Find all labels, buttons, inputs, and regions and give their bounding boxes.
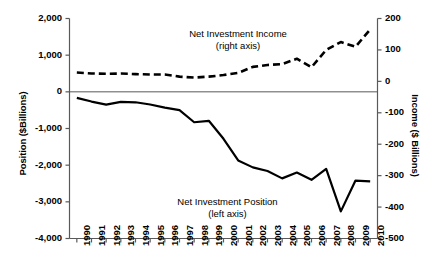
- x-tick-label: 1992: [111, 224, 122, 245]
- x-tick-label: 1997: [184, 224, 195, 245]
- annotation-net-investment-position: Net Investment Position (left axis): [165, 196, 290, 220]
- x-tick-label: 1990: [81, 224, 92, 245]
- y-tick-label-right: -200: [385, 138, 425, 149]
- y-tick-label-right: 0: [385, 75, 425, 86]
- y-tick-label-left: 0: [18, 85, 62, 96]
- y-tick-label-left: -3,000: [18, 195, 62, 206]
- x-tick-label: 2010: [375, 224, 386, 245]
- x-tick-label: 1999: [213, 224, 224, 245]
- x-tick-label: 2007: [331, 224, 342, 245]
- y-tick-label-left: 1,000: [18, 49, 62, 60]
- x-tick-label: 1993: [125, 224, 136, 245]
- x-tick-label: 1994: [140, 224, 151, 245]
- x-tick-label: 1991: [96, 224, 107, 245]
- x-tick-label: 1996: [169, 224, 180, 245]
- y-tick-label-right: -500: [385, 232, 425, 243]
- y-tick-label-right: -100: [385, 106, 425, 117]
- x-tick-label: 2000: [228, 224, 239, 245]
- annotation-position-line1: Net Investment Position: [165, 196, 290, 208]
- x-tick-label: 2006: [316, 224, 327, 245]
- x-tick-label: 2001: [243, 224, 254, 245]
- series-line-position: [77, 98, 370, 211]
- y-tick-label-right: 200: [385, 12, 425, 23]
- annotation-position-line2: (left axis): [165, 208, 290, 220]
- x-tick-label: 2003: [272, 224, 283, 245]
- x-tick-label: 2002: [257, 224, 268, 245]
- chart-container: Position ($Billions) Income ($ Billions)…: [0, 0, 431, 279]
- x-tick-label: 2009: [360, 224, 371, 245]
- y-tick-label-left: -2,000: [18, 159, 62, 170]
- annotation-net-investment-income: Net Investment Income (right axis): [178, 28, 298, 52]
- x-tick-label: 2008: [345, 224, 356, 245]
- annotation-income-line1: Net Investment Income: [178, 28, 298, 40]
- annotation-income-line2: (right axis): [178, 40, 298, 52]
- x-tick-label: 1998: [199, 224, 210, 245]
- y-tick-label-left: -1,000: [18, 122, 62, 133]
- x-tick-label: 2004: [287, 224, 298, 245]
- y-tick-label-left: 2,000: [18, 12, 62, 23]
- x-tick-label: 1995: [155, 224, 166, 245]
- x-tick-label: 2005: [301, 224, 312, 245]
- y-tick-label-right: -400: [385, 201, 425, 212]
- y-tick-label-right: -300: [385, 169, 425, 180]
- y-tick-label-right: 100: [385, 43, 425, 54]
- y-tick-label-left: -4,000: [18, 232, 62, 243]
